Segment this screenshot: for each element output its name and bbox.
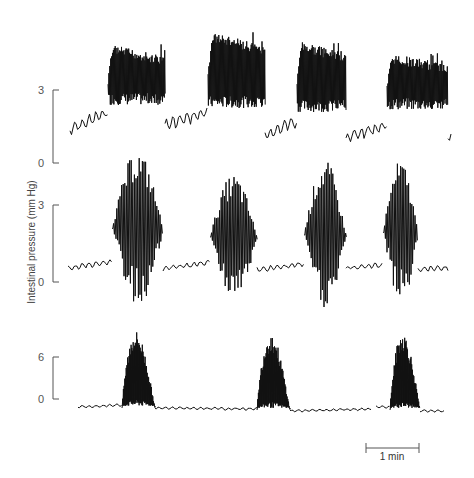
panel-3-tick-top: 6 [38, 351, 44, 363]
trace-burst [387, 53, 448, 109]
trace-burst [257, 338, 290, 410]
trace-baseline [290, 408, 371, 412]
trace-burst [390, 338, 420, 410]
trace-baseline [265, 119, 297, 137]
trace-baseline [257, 263, 304, 271]
panel-2-tick-bottom: 0 [38, 276, 44, 288]
panel-1-trace [70, 32, 451, 141]
trace-baseline [346, 263, 382, 269]
trace-baseline [418, 266, 448, 272]
trace-baseline [163, 260, 210, 271]
time-scale-bar: 1 min [366, 443, 419, 462]
panel-3-scale-bracket [53, 357, 59, 399]
trace-baseline [448, 134, 451, 140]
trace-baseline [78, 404, 122, 408]
trace-burst [304, 163, 346, 307]
panel-2-scale-bracket [53, 205, 59, 282]
trace-burst [210, 177, 257, 291]
panel-1: 3 0 [38, 32, 451, 169]
trace-baseline [420, 410, 444, 412]
trace-baseline [68, 260, 112, 270]
panel-2-trace [68, 158, 448, 307]
panel-1-tick-bottom: 0 [38, 157, 44, 169]
panel-1-scale-bracket [53, 90, 59, 163]
trace-baseline [70, 112, 108, 135]
trace-baseline [346, 123, 387, 142]
trace-burst [297, 42, 346, 112]
trace-baseline [376, 406, 390, 408]
panel-2: 3 0 [38, 158, 448, 307]
y-axis-title: Intestinal pressure (mm Hg) [26, 180, 37, 303]
panel-2-tick-top: 3 [38, 199, 44, 211]
panel-1-tick-top: 3 [38, 84, 44, 96]
trace-burst [122, 332, 155, 408]
panel-3-tick-bottom: 0 [38, 393, 44, 405]
trace-burst [383, 164, 417, 295]
trace-burst [108, 44, 165, 105]
trace-baseline [165, 108, 207, 129]
panel-3-trace [78, 332, 444, 412]
scale-bar-label: 1 min [380, 451, 404, 462]
trace-burst [112, 158, 162, 301]
trace-burst [208, 32, 265, 108]
panel-3: 6 0 [38, 332, 444, 412]
trace-baseline [155, 407, 257, 410]
intestinal-pressure-figure: Intestinal pressure (mm Hg) 3 0 3 0 6 0 … [0, 0, 474, 478]
